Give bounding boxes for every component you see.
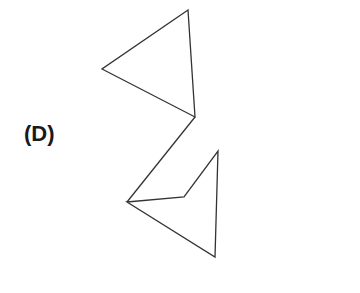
connector-line <box>127 117 195 202</box>
lower-arrowhead-shape <box>127 151 218 257</box>
diagram-canvas: (D) <box>0 0 360 293</box>
upper-triangle <box>102 10 195 117</box>
figure <box>0 0 360 293</box>
